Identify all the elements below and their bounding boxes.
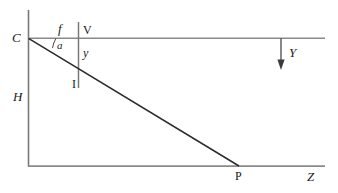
label-depth-axis: Z bbox=[307, 170, 314, 183]
geometry-drawing bbox=[0, 0, 338, 193]
label-ground-point: P bbox=[235, 170, 242, 182]
label-focal-length: f bbox=[58, 22, 62, 35]
label-camera-center: C bbox=[12, 31, 21, 44]
label-angle-alpha: a bbox=[57, 40, 63, 51]
label-image-point: I bbox=[72, 78, 76, 90]
label-height: H bbox=[13, 90, 22, 103]
y-axis-arrow-head-icon bbox=[277, 60, 284, 71]
label-vertical-axis: Y bbox=[289, 46, 296, 59]
ray-line-c-to-p bbox=[29, 38, 240, 166]
label-image-offset: y bbox=[83, 47, 88, 59]
label-vanishing-point: V bbox=[83, 24, 92, 36]
diagram-canvas: C H f a V y I Y P Z bbox=[0, 0, 338, 193]
angle-arc-alpha bbox=[53, 38, 57, 48]
